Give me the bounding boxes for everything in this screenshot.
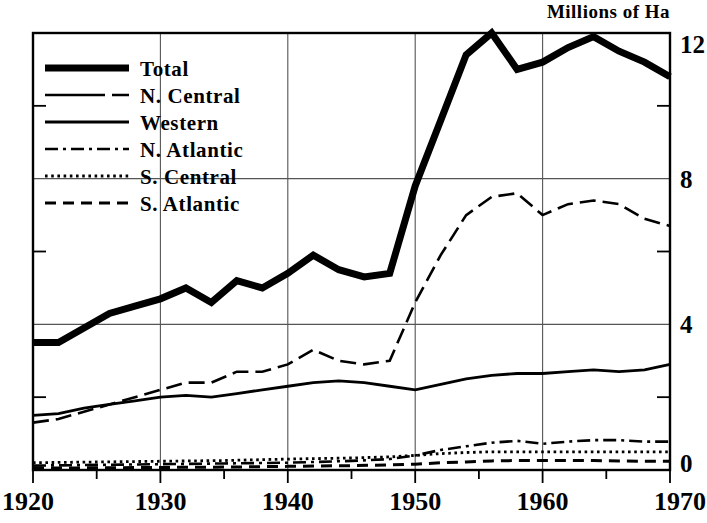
chart-title: Millions of Ha [547,1,670,22]
x-tick-label: 1950 [389,487,441,516]
legend-label-s-central: S. Central [140,165,237,189]
legend-label-western: Western [140,111,219,135]
legend-label-n-atlantic: N. Atlantic [140,138,243,162]
y-tick-label: 4 [680,311,693,338]
line-chart: Millions of Ha 192019301940195019601970 … [0,0,707,523]
x-tick-label: 1930 [134,487,186,516]
legend-label-n-central: N. Central [140,84,240,108]
chart-container: Millions of Ha 192019301940195019601970 … [0,0,707,523]
x-tick-label: 1940 [262,487,314,516]
y-tick-label: 0 [680,450,693,477]
x-tick-label: 1970 [654,487,706,516]
legend-label-total: Total [140,57,189,81]
y-tick-label: 8 [680,166,693,193]
chart-background [0,0,707,523]
x-tick-label: 1960 [517,487,569,516]
x-tick-label: 1920 [2,487,54,516]
y-tick-label: 12 [680,31,705,58]
legend-label-s-atlantic: S. Atlantic [140,192,240,216]
